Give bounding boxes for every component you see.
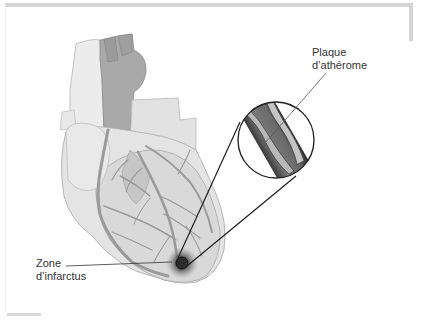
infarct-zone-label: Zone d’infarctus [36, 257, 86, 283]
magnified-artery [235, 88, 316, 193]
plaque-label: Plaque d’athérome [312, 46, 367, 72]
plaque-label-line2: d’athérome [312, 59, 367, 72]
zone-label-line1: Zone [36, 257, 86, 270]
zone-label-line2: d’infarctus [36, 270, 86, 283]
infarct-zone [166, 247, 198, 279]
plaque-label-line1: Plaque [312, 46, 367, 59]
